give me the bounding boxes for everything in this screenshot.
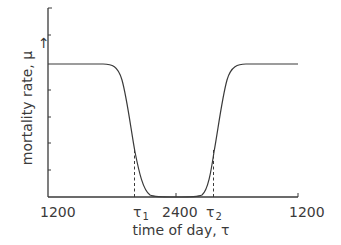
x-tick-label-2400: 2400 xyxy=(162,204,198,220)
x-tick-label-tau2: τ2 xyxy=(206,204,222,222)
y-arrow-marker: ↑ xyxy=(38,35,50,51)
x-tick-label-end: 1200 xyxy=(289,204,325,220)
x-tick-label-start: 1200 xyxy=(40,204,76,220)
y-axis-title: mortality rate, μ xyxy=(19,51,35,165)
x-tick-label-tau1: τ1 xyxy=(133,204,149,222)
mortality-rate-chart: ↑ 1200 τ1 2400 τ2 1200 time of day, τ mo… xyxy=(0,0,341,245)
x-axis-title: time of day, τ xyxy=(132,222,229,238)
mortality-curve xyxy=(48,64,298,197)
